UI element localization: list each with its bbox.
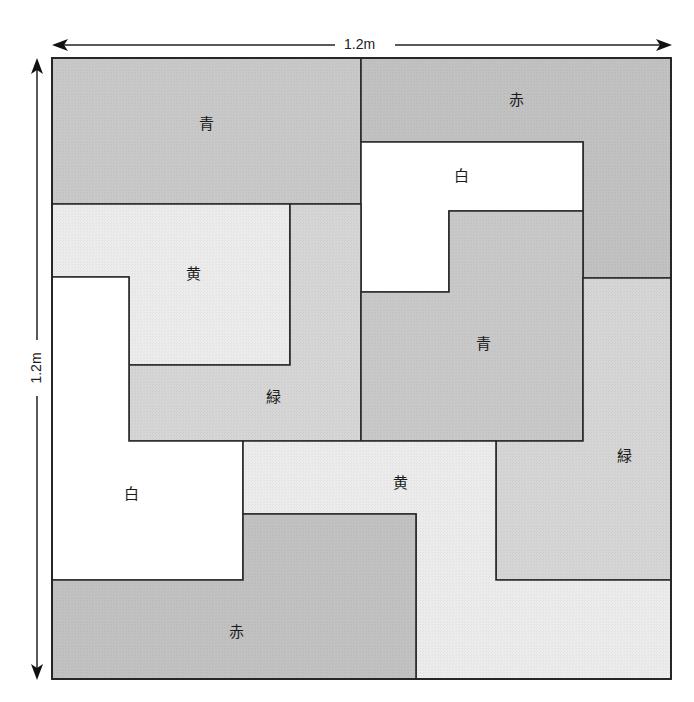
tile-label: 緑 (617, 447, 632, 465)
tile-label: 赤 (229, 623, 244, 641)
tiles-layer (52, 58, 671, 679)
tile-label: 白 (124, 485, 139, 503)
width-dimension-label: 1.2m (340, 36, 379, 52)
height-dimension-label: 1.2m (28, 348, 44, 387)
tiling-diagram: 青赤白黄緑青緑白黄赤 (0, 0, 694, 702)
tile-label: 赤 (509, 91, 524, 109)
tile-label: 黄 (393, 474, 408, 492)
tile-label: 白 (454, 167, 469, 185)
tile-label: 青 (199, 115, 214, 133)
tile-label: 緑 (266, 388, 281, 406)
tile-label: 黄 (186, 265, 201, 283)
tile-label: 青 (476, 335, 491, 353)
